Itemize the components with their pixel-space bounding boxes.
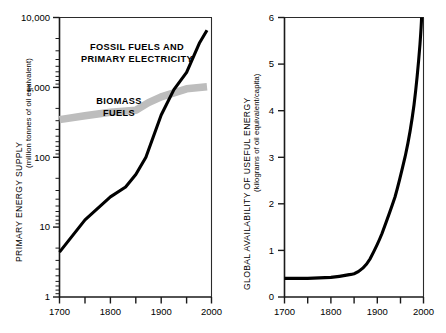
right-x-tick-labels: 1700 1800 1900 2000 xyxy=(274,306,434,317)
y-axis-label-1: 1 xyxy=(269,245,274,256)
x-axis-label-1700: 1700 xyxy=(274,306,295,317)
y-axis-label-0: 0 xyxy=(269,291,274,302)
y-axis-label-10000: 10,000 xyxy=(21,12,50,23)
right-y-axis-title: GLOBAL AVAILABILITY OF USEFUL ENERGY xyxy=(242,98,252,291)
y-axis-label-3: 3 xyxy=(269,152,274,163)
x-axis-label-2000: 2000 xyxy=(201,306,222,317)
y-axis-label-1000: 1,000 xyxy=(26,82,50,93)
right-x-ticks xyxy=(285,297,424,304)
biomass-fuels-annotation-line1: BIOMASS xyxy=(96,96,142,106)
y-axis-label-10: 10 xyxy=(39,221,50,232)
x-axis-label-1800: 1800 xyxy=(100,306,121,317)
global-availability-curve xyxy=(285,18,422,279)
left-y-axis-title: PRIMARY ENERGY SUPPLY xyxy=(14,142,24,262)
chart-panel-primary-energy-supply: PRIMARY ENERGY SUPPLY (million tonnes of… xyxy=(0,0,223,333)
y-axis-label-2: 2 xyxy=(269,198,274,209)
biomass-fuels-annotation-line2: FUELS xyxy=(103,108,135,118)
y-axis-label-1: 1 xyxy=(45,291,50,302)
right-y-ticks xyxy=(278,18,285,298)
right-y-tick-labels: 6 5 4 3 2 1 0 xyxy=(269,12,274,303)
x-axis-label-1800: 1800 xyxy=(320,306,341,317)
energy-figure: PRIMARY ENERGY SUPPLY (million tonnes of… xyxy=(0,0,446,333)
y-axis-label-6: 6 xyxy=(269,12,274,23)
x-axis-label-1900: 1900 xyxy=(367,306,388,317)
x-axis-label-1900: 1900 xyxy=(151,306,172,317)
chart-panel-global-availability-useful-energy: GLOBAL AVAILABILITY OF USEFUL ENERGY (ki… xyxy=(223,0,446,333)
fossil-fuels-annotation-line2: PRIMARY ELECTRICITY xyxy=(81,54,193,64)
y-axis-label-5: 5 xyxy=(269,58,274,69)
left-x-tick-labels: 1700 1800 1900 2000 xyxy=(49,306,222,317)
fossil-fuels-annotation-line1: FOSSIL FUELS AND xyxy=(90,42,184,52)
y-axis-label-4: 4 xyxy=(269,105,274,116)
y-axis-label-100: 100 xyxy=(34,152,50,163)
right-y-axis-units: (kilograms of oil equivalent/capita) xyxy=(252,73,261,192)
left-x-ticks xyxy=(60,297,212,304)
right-axes xyxy=(285,17,425,298)
right-axis-titles: GLOBAL AVAILABILITY OF USEFUL ENERGY (ki… xyxy=(242,73,261,290)
left-y-axis-units: (million tonnes of oil equivalent) xyxy=(24,58,33,168)
x-axis-label-2000: 2000 xyxy=(413,306,434,317)
x-axis-label-1700: 1700 xyxy=(49,306,70,317)
